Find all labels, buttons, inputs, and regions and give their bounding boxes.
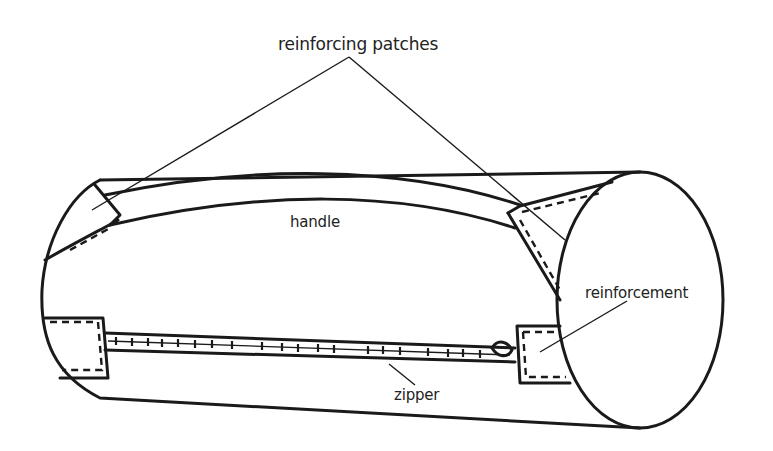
bag-diagram: reinforcing patches handle reinforcement… [0, 0, 773, 451]
reinforcement-right [517, 326, 570, 383]
label-handle: handle [290, 213, 340, 231]
bag-drawing [0, 0, 773, 451]
label-zipper: zipper [394, 386, 439, 404]
reinforcing-patch-right [508, 182, 612, 300]
reinforcement-left [45, 318, 108, 378]
leader-reinforcing-patches-left [92, 57, 349, 210]
leader-zipper [389, 364, 415, 385]
label-reinforcing-patches: reinforcing patches [278, 34, 438, 54]
label-reinforcement: reinforcement [585, 284, 688, 302]
zipper [105, 333, 515, 362]
